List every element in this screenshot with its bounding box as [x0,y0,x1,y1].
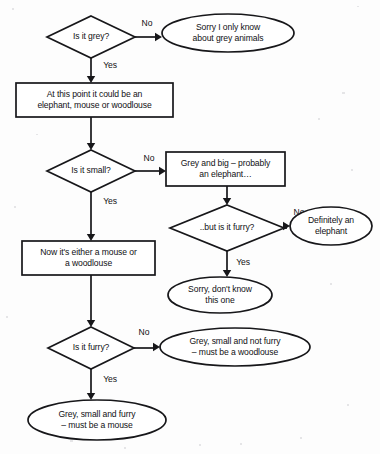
terminator-definitely-an-elephant[interactable]: Definitely anelephant [290,207,372,245]
edge-grey-yes: Yes [87,58,117,83]
terminator-only-grey-animals-text-line-2: about grey animals [193,33,264,43]
arrowhead-down-icon [87,234,95,241]
arrowhead-down-icon [223,270,231,277]
process-grey-and-big-text-line-2: an elephant… [199,169,251,179]
arrowhead-right-icon [283,222,290,230]
edge-small-yes: Yes [87,192,117,241]
edge-mousewood-to-furry [87,275,95,327]
decision-is-it-small[interactable]: Is it small? [47,150,135,192]
nodes-layer: Is it grey?Sorry I only knowabout grey a… [16,14,372,440]
decision-but-is-it-furry-text-line-1: ..but is it furry? [200,222,255,232]
terminator-must-be-a-mouse-text-line-1: Grey, small and furry [58,409,136,419]
terminator-only-grey-animals[interactable]: Sorry I only knowabout grey animals [162,14,294,52]
arrowhead-right-icon [155,33,162,41]
edge-furry-yes-label: Yes [103,374,117,384]
edge-bigfurry-yes-label: Yes [236,257,250,267]
terminator-definitely-an-elephant-text-line-1: Definitely an [308,215,354,225]
process-mouse-or-woodlouse-text-line-2: a woodlouse [65,258,112,268]
decision-is-it-furry[interactable]: Is it furry? [48,327,134,369]
arrowhead-right-icon [159,167,166,175]
edge-small-no: No [135,153,166,175]
arrowhead-down-icon [223,198,231,205]
arrowhead-right-icon [153,343,160,351]
edge-small-yes-label: Yes [103,196,117,206]
process-mouse-or-woodlouse-text-line-1: Now it's either a mouse or [40,247,137,257]
edge-furry-no-label: No [139,327,150,337]
edge-bigfurry-yes: Yes [223,251,250,277]
edge-furry-yes: Yes [87,369,117,400]
process-could-be-three-animals-text-line-1: At this point it could be an [47,89,143,99]
arrowhead-down-icon [87,76,95,83]
process-grey-and-big-text-line-1: Grey and big – probably [181,158,271,168]
edge-grey-no-label: No [142,18,153,28]
terminator-must-be-a-mouse[interactable]: Grey, small and furry– must be a mouse [28,400,166,440]
arrowhead-down-icon [87,320,95,327]
decision-is-it-grey[interactable]: Is it grey? [47,16,135,58]
edge-grey-no: No [135,18,162,41]
terminator-must-be-a-woodlouse-text-line-2: – must be a woodlouse [192,347,279,357]
terminator-dont-know-this-one-text-line-1: Sorry, don't know [188,284,253,294]
decision-but-is-it-furry[interactable]: ..but is it furry? [170,205,284,251]
process-could-be-three-animals[interactable]: At this point it could be anelephant, mo… [16,83,173,117]
terminator-must-be-a-woodlouse-text-line-1: Grey, small and not furry [190,336,282,346]
terminator-only-grey-animals-text-line-1: Sorry I only know [196,22,261,32]
flowchart-canvas: NoYesNoYesNoYesNoYes Is it grey?Sorry I … [0,0,380,454]
edge-furry-no: No [134,327,160,351]
edge-small-no-label: No [144,153,155,163]
edge-greybig-to-furry [223,186,231,205]
process-could-be-three-animals-text-line-2: elephant, mouse or woodlouse [37,100,152,110]
terminator-dont-know-this-one-text-line-2: this one [205,295,235,305]
terminator-definitely-an-elephant-text-line-2: elephant [315,226,348,236]
terminator-must-be-a-mouse-text-line-2: – must be a mouse [61,420,133,430]
decision-is-it-small-text-line-1: Is it small? [71,165,111,175]
process-grey-and-big[interactable]: Grey and big – probablyan elephant… [166,152,285,186]
edge-grey-yes-label: Yes [103,60,117,70]
arrowhead-down-icon [87,393,95,400]
decision-is-it-furry-text-line-1: Is it furry? [73,342,110,352]
process-mouse-or-woodlouse[interactable]: Now it's either a mouse ora woodlouse [22,241,155,275]
flowchart-svg: NoYesNoYesNoYesNoYes Is it grey?Sorry I … [0,0,380,454]
terminator-must-be-a-woodlouse[interactable]: Grey, small and not furry– must be a woo… [160,328,310,366]
terminator-dont-know-this-one[interactable]: Sorry, don't knowthis one [168,277,272,313]
arrowhead-down-icon [87,143,95,150]
edge-couldbe-to-small [87,117,95,150]
decision-is-it-grey-text-line-1: Is it grey? [73,31,109,41]
